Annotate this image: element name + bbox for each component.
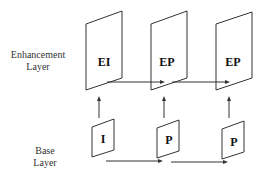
enhancement-frame-2: EP [216, 12, 252, 90]
frame-label: I [101, 132, 106, 146]
base-label-line1: Base [35, 145, 55, 156]
arrowhead-icon [223, 160, 228, 164]
base-arrow-1-2 [171, 160, 228, 164]
enhancement-label-line2: Layer [26, 61, 50, 72]
frame-shape [86, 11, 122, 90]
base-label-line2: Layer [33, 157, 57, 168]
frame-label: P [230, 135, 237, 149]
base-frame-1: P [157, 120, 179, 158]
base-frame-2: P [222, 121, 244, 159]
upward-arrow-1 [162, 96, 166, 118]
upward-arrow-0 [97, 96, 101, 118]
frame-label: EP [225, 55, 240, 69]
arrowhead-icon [97, 96, 101, 101]
frame-label: EI [98, 55, 111, 69]
base-layer-label: Base Layer [33, 145, 57, 168]
base-arrow-0-1 [106, 159, 163, 163]
enhancement-frame-1: EP [151, 11, 187, 90]
base-frame-0: I [92, 119, 114, 157]
enhancement-layer-label: Enhancement Layer [11, 49, 66, 72]
frame-label: P [165, 133, 172, 147]
frame-shape [216, 12, 252, 90]
upward-arrow-2 [227, 96, 231, 118]
frame-shape [151, 11, 187, 90]
arrowhead-icon [158, 159, 163, 163]
frame-label: EP [159, 55, 174, 69]
enhancement-frame-0: EI [86, 11, 122, 90]
scalable-coding-diagram: Enhancement Layer Base Layer EI EP EP [0, 0, 267, 180]
arrowhead-icon [227, 96, 231, 101]
arrowhead-icon [162, 96, 166, 101]
enhancement-label-line1: Enhancement [11, 49, 66, 60]
